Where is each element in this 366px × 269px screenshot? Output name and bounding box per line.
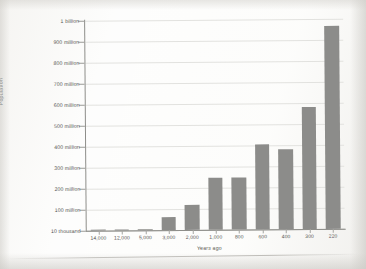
y-axis-tick-label: 1 billion	[9, 18, 79, 25]
y-axis-tick-label: 300 million	[10, 165, 80, 172]
x-axis-title: Years ago	[197, 245, 222, 251]
y-axis-tick-label: 100 million	[11, 207, 81, 214]
x-axis-tick-label: 220	[313, 233, 353, 239]
y-axis-tick-label: 700 million	[10, 81, 80, 88]
chart-page: 1 billion900 million800 million700 milli…	[0, 0, 366, 269]
y-axis-title: Population	[0, 78, 4, 106]
bar	[208, 177, 223, 230]
y-axis-tick-label: 900 million	[9, 39, 79, 46]
bar	[301, 107, 316, 229]
bar	[278, 149, 293, 229]
y-axis-tick-label: 10 thousand	[11, 228, 81, 235]
y-axis-tick-label: 400 million	[10, 144, 80, 151]
bar	[161, 217, 176, 230]
y-axis-tick-label: 500 million	[10, 123, 80, 130]
y-axis-tick-label: 800 million	[9, 60, 79, 67]
bar	[255, 144, 270, 229]
chart-canvas: 1 billion900 million800 million700 milli…	[0, 0, 366, 269]
y-axis-tick-label: 200 million	[10, 186, 80, 193]
bar	[185, 205, 200, 230]
bar	[324, 26, 340, 229]
x-axis-tick-labels: 14,00012,0005,0003,0002,0001,00080060040…	[0, 0, 365, 1]
y-axis-tick-label: 600 million	[10, 102, 80, 109]
bar	[232, 177, 247, 230]
y-axis-tick-labels: 1 billion900 million800 million700 milli…	[0, 0, 365, 1]
bar-series	[85, 19, 345, 231]
